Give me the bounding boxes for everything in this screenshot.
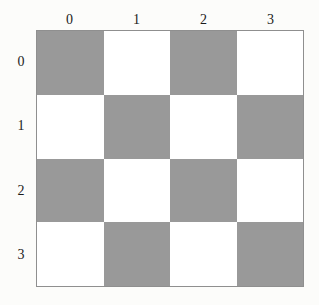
grid-cell-r2-c3 xyxy=(237,159,304,223)
grid-cell-r2-c2 xyxy=(170,159,237,223)
row-label-0: 0 xyxy=(8,30,34,94)
grid-cell-r0-c2 xyxy=(170,31,237,95)
grid-cell-r3-c0 xyxy=(37,222,104,286)
checkerboard-grid xyxy=(36,30,304,287)
grid-cell-r2-c1 xyxy=(104,159,171,223)
grid-cell-r1-c2 xyxy=(170,95,237,159)
row-label-1: 1 xyxy=(8,94,34,158)
row-label-2: 2 xyxy=(8,159,34,223)
column-header-axis: 0 1 2 3 xyxy=(36,10,304,30)
row-label-3: 3 xyxy=(8,223,34,287)
figure-canvas: 0 1 2 3 0 1 2 3 xyxy=(0,0,319,305)
column-label-1: 1 xyxy=(103,10,170,30)
grid-cell-r0-c1 xyxy=(104,31,171,95)
grid-cell-r0-c0 xyxy=(37,31,104,95)
column-label-2: 2 xyxy=(170,10,237,30)
grid-cell-r2-c0 xyxy=(37,159,104,223)
grid-cell-r1-c1 xyxy=(104,95,171,159)
grid-cell-r1-c0 xyxy=(37,95,104,159)
grid-cell-r0-c3 xyxy=(237,31,304,95)
row-header-axis: 0 1 2 3 xyxy=(8,30,34,287)
column-label-0: 0 xyxy=(36,10,103,30)
grid-cell-r3-c2 xyxy=(170,222,237,286)
column-label-3: 3 xyxy=(237,10,304,30)
grid-cell-r3-c1 xyxy=(104,222,171,286)
grid-cell-r1-c3 xyxy=(237,95,304,159)
grid-cell-r3-c3 xyxy=(237,222,304,286)
